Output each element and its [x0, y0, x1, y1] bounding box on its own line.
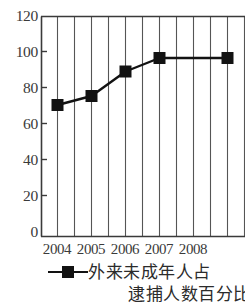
x-axis-tick-labels: 2004 2005 2006 2007 2008 — [0, 240, 245, 262]
y-tick-label-80: 80 — [4, 80, 38, 95]
data-point-marker — [222, 52, 234, 64]
data-point-marker — [154, 52, 166, 64]
legend-marker-swatch-icon — [48, 262, 88, 282]
legend-label-line1: 外来未成年人占 — [88, 262, 211, 282]
chart-legend: 外来未成年人占 逮捕人数百分比 — [0, 261, 245, 307]
legend-square-marker-icon — [62, 266, 74, 278]
data-point-marker — [120, 66, 132, 78]
y-tick-label-120: 120 — [4, 8, 38, 23]
chart-figure: 120 100 80 60 40 20 0 2004 2005 2006 200… — [0, 0, 245, 307]
y-tick-label-20: 20 — [4, 188, 38, 203]
y-tick-label-100: 100 — [4, 44, 38, 59]
x-tick-label-2008: 2008 — [171, 240, 215, 259]
legend-label-line2: 逮捕人数百分比 — [88, 283, 245, 305]
data-point-marker — [52, 99, 64, 111]
legend-label: 外来未成年人占 逮捕人数百分比 — [88, 261, 245, 305]
y-tick-label-60: 60 — [4, 116, 38, 131]
y-tick-label-40: 40 — [4, 152, 38, 167]
legend-entry: 外来未成年人占 逮捕人数百分比 — [48, 261, 245, 305]
y-tick-label-0: 0 — [4, 224, 38, 239]
data-point-marker — [86, 90, 98, 102]
y-axis-tick-labels: 120 100 80 60 40 20 0 — [0, 0, 38, 250]
